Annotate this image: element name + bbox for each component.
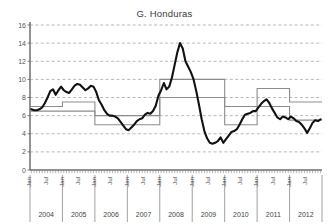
- x-axis-year-band: 2004JanJul2005JanJul2006JanJul2007JanJul…: [26, 175, 322, 222]
- x-axis-month-label: Jan: [253, 177, 259, 187]
- y-axis-tick-label: 12: [18, 58, 26, 65]
- x-axis-year-label: 2008: [168, 211, 184, 218]
- y-axis-tick-label: 0: [22, 167, 26, 174]
- x-axis-year-label: 2005: [71, 211, 87, 218]
- x-axis-month-label: Jan: [124, 177, 130, 187]
- x-axis-month-label: Jul: [43, 177, 49, 185]
- x-axis-month-label: Jul: [205, 177, 211, 185]
- y-axis-tick-label: 2: [22, 148, 26, 155]
- y-axis-tick-label: 14: [18, 40, 26, 47]
- x-axis-month-label: Jul: [270, 177, 276, 185]
- x-axis-month-label: Jan: [189, 177, 195, 187]
- x-axis-month-label: Jan: [26, 177, 32, 187]
- y-axis-tick-label: 16: [18, 22, 26, 29]
- x-axis-year-label: 2004: [38, 211, 54, 218]
- x-axis-year-label: 2011: [266, 211, 281, 218]
- x-axis-year-label: 2009: [201, 211, 217, 218]
- x-axis-month-label: Jul: [140, 177, 146, 185]
- y-axis-tick-label: 6: [22, 112, 26, 119]
- x-axis-month-label: Jan: [156, 177, 162, 187]
- x-axis-month-label: Jan: [59, 177, 65, 187]
- x-axis-month-label: Jul: [75, 177, 81, 185]
- x-axis-month-label: Jul: [107, 177, 113, 185]
- inflation-line: [31, 43, 320, 144]
- y-axis-tick-label: 8: [22, 94, 26, 101]
- x-axis-year-label: 2006: [103, 211, 119, 218]
- x-axis-month-label: Jul: [172, 177, 178, 185]
- y-axis-tick-label: 10: [18, 76, 26, 83]
- x-axis-month-label: Jul: [302, 177, 308, 185]
- x-axis-month-label: Jan: [286, 177, 292, 187]
- x-axis-year-label: 2010: [233, 211, 249, 218]
- y-axis-tick-label: 4: [22, 130, 26, 137]
- x-axis-month-label: Jan: [91, 177, 97, 187]
- x-axis-month-label: Jan: [221, 177, 227, 187]
- chart-plot: 02468101214162004JanJul2005JanJul2006Jan…: [0, 0, 329, 224]
- x-axis-year-label: 2012: [298, 211, 314, 218]
- chart-container: G. Honduras 02468101214162004JanJul2005J…: [0, 0, 329, 224]
- x-axis-month-label: Jul: [237, 177, 243, 185]
- x-axis-year-label: 2007: [136, 211, 152, 218]
